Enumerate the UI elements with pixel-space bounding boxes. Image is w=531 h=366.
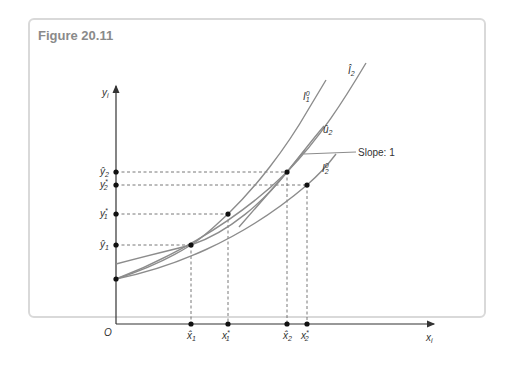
dashed-guides: [116, 172, 307, 324]
ytick-y2-hat: ŷ2: [99, 166, 109, 178]
label-u2-hat: û2: [323, 124, 333, 136]
ytick-y1-star: y*1: [99, 207, 108, 220]
label-I2-0: I02: [322, 162, 329, 175]
xtick-x1-hat: x̂1: [186, 330, 196, 342]
slope-leader: [304, 152, 356, 154]
ytick-y1-hat: ŷ1: [99, 239, 109, 251]
y-axis-label: yi: [101, 87, 109, 99]
label-I1-0: I01: [303, 90, 310, 103]
diagram-canvas: yi xi O ŷ2 y*2 y*1 ŷ1 x̂1 x*1 x̂2 x*2 I0…: [0, 0, 531, 366]
xtick-x1-star: x*1: [221, 329, 230, 342]
points: [113, 169, 309, 326]
slope-annotation: Slope: 1: [358, 147, 395, 158]
x-axis-label: xi: [425, 332, 433, 344]
origin-label: O: [104, 327, 112, 338]
ytick-y2-star: y*2: [99, 178, 108, 191]
label-I2-hat: Î2: [348, 64, 355, 77]
curve-I1-0: [116, 80, 326, 279]
xtick-x2-star: x*2: [300, 329, 309, 342]
slope-tangent: [239, 150, 305, 227]
xtick-x2-hat: x̂2: [282, 330, 292, 342]
